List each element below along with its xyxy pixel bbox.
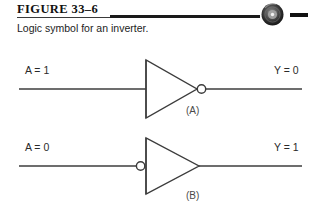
inverter-diagram [0,0,320,216]
gate-a-input-label: A = 1 [25,64,49,76]
gate-a-output-label: Y = 0 [274,64,299,76]
gate-a-output-bubble [197,85,205,93]
gate-b-input-label: A = 0 [25,141,49,153]
gate-a-part-label: (A) [186,105,199,116]
gate-a-group [19,60,302,118]
gate-b-triangle [146,138,199,194]
gate-b-group [19,138,302,194]
gate-b-part-label: (B) [186,190,199,201]
gate-b-output-label: Y = 1 [274,141,299,153]
figure-page: FIGURE 33–6 Logic symbol for an inverter… [0,0,320,216]
gate-b-input-bubble [136,162,144,170]
